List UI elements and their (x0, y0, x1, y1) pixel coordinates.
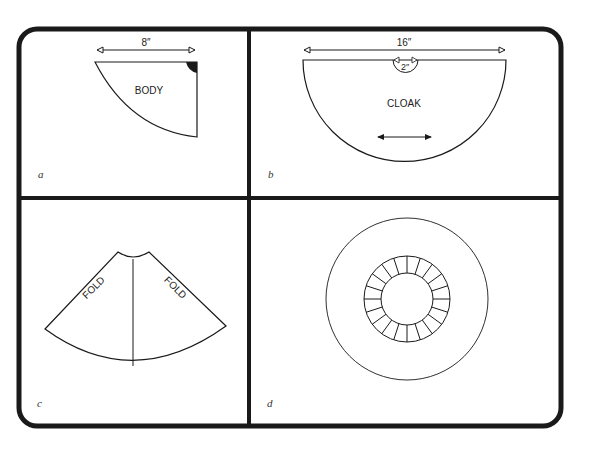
panel-letter-a: a (38, 168, 44, 180)
outer-frame (20, 30, 311, 426)
outer-circle (326, 218, 488, 380)
body-shape (95, 62, 197, 137)
panel-letter-b: b (268, 168, 274, 180)
neck-dimension: 2″ (401, 62, 410, 72)
pattern-diagram: 8″ BODY a 16″ 2″ CLOAK b FOLD FOLD c d (0, 0, 589, 451)
frame-border (19, 29, 311, 426)
cloak-label: CLOAK (387, 98, 421, 109)
panel-d: d (267, 218, 488, 409)
panel-letter-d: d (267, 397, 273, 409)
panel-a: 8″ BODY a (38, 37, 197, 180)
panel-c: FOLD FOLD c (37, 252, 226, 409)
diagram-frame (19, 29, 561, 426)
body-dimension: 8″ (141, 37, 151, 48)
neck-cutout (186, 62, 197, 73)
panel-b: 16″ 2″ CLOAK b (268, 37, 506, 180)
frame-border (40, 29, 311, 48)
panel-letter-c: c (37, 397, 42, 409)
outer-frame (19, 29, 311, 426)
folded-cloak-shape (45, 252, 226, 360)
cloak-dimension: 16″ (397, 37, 412, 48)
body-label: BODY (135, 85, 164, 96)
cloak-shape (303, 60, 506, 161)
ring-inner (381, 273, 433, 325)
